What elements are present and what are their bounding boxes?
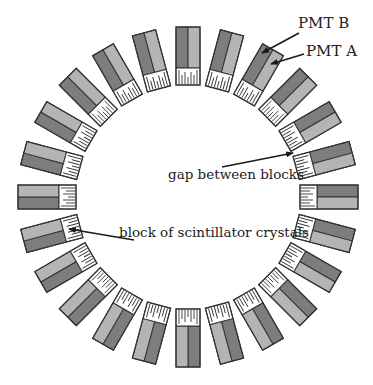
annotation-pmt-a: PMT A — [271, 42, 357, 64]
pet-ring-diagram: PMT B PMT A gap between blocks block of … — [0, 0, 373, 385]
detector-block — [176, 27, 200, 85]
label-pmt-b: PMT B — [298, 14, 349, 32]
pmt-a — [188, 27, 200, 68]
detector-block — [300, 185, 358, 209]
annotation-gap: gap between blocks — [168, 153, 304, 182]
pmt-b — [188, 326, 200, 367]
detector-block — [205, 30, 243, 92]
detector-ring — [18, 27, 358, 367]
diagram-canvas: PMT B PMT A gap between blocks block of … — [0, 0, 373, 385]
pmt-b — [18, 197, 59, 209]
detector-block — [132, 30, 170, 92]
detector-block — [132, 302, 170, 364]
label-pmt-a: PMT A — [306, 42, 357, 60]
detector-block — [21, 214, 83, 252]
label-scintillator-block: block of scintillator crystals — [119, 224, 309, 240]
pmt-a — [317, 197, 358, 209]
detector-block — [18, 185, 76, 209]
detector-block — [176, 309, 200, 367]
pmt-b — [176, 27, 188, 68]
detector-block — [21, 141, 83, 179]
detector-block — [205, 302, 243, 364]
pmt-b — [317, 185, 358, 197]
pmt-a — [18, 185, 59, 197]
pmt-a — [176, 326, 188, 367]
arrow-gap-between-blocks — [222, 153, 293, 167]
annotation-crystals: block of scintillator crystals — [69, 224, 309, 240]
arrow-pmt-b — [262, 33, 299, 53]
label-gap-between-blocks: gap between blocks — [168, 166, 304, 182]
